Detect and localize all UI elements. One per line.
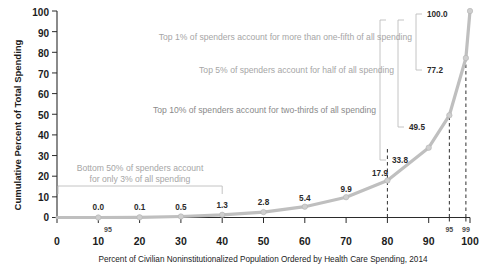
- data-label: 0.0: [93, 203, 105, 212]
- y-tick-label: 80: [38, 48, 50, 59]
- data-label: 77.2: [427, 66, 443, 75]
- data-label: 49.5: [409, 123, 425, 132]
- y-tick-label: 30: [38, 151, 50, 162]
- x-tick-label: 40: [216, 235, 228, 247]
- x-tick-label: 30: [175, 235, 187, 247]
- y-tick-label: 10: [38, 192, 50, 203]
- y-tick-label: 50: [38, 110, 50, 121]
- data-label: 100.0: [427, 10, 448, 19]
- data-label: 9.9: [340, 185, 352, 194]
- bracket-top-1: [416, 14, 422, 70]
- annotation-top-1: Top 1% of spenders account for more than…: [159, 32, 412, 42]
- x-tick-label: 60: [299, 235, 311, 247]
- data-label: 33.8: [392, 156, 408, 165]
- data-label: 1.3: [217, 201, 229, 210]
- y-tick-label: 100: [32, 7, 49, 18]
- annotation-top-10: Top 10% of spenders account for two-thir…: [153, 105, 376, 115]
- data-label: 0.5: [175, 203, 187, 212]
- x-stray-tick-label: 95: [104, 226, 112, 233]
- x-tick-label: 100: [461, 235, 479, 247]
- annotation-bottom-50-line1: Bottom 50% of spenders account: [77, 163, 204, 173]
- y-tick-label: 60: [38, 89, 50, 100]
- data-label: 0.1: [134, 203, 146, 212]
- x-tick-label: 0: [54, 235, 60, 247]
- x-tick-label: 10: [92, 235, 104, 247]
- x-tick-label: 50: [258, 235, 270, 247]
- y-tick-label: 90: [38, 28, 50, 39]
- bracket-bottom-50: [58, 186, 222, 194]
- x-minor-tick-label: 99: [462, 226, 470, 233]
- annotation-top-5: Top 5% of spenders account for half of a…: [199, 65, 394, 75]
- y-tick-label: 20: [38, 171, 50, 182]
- y-tick-label: 70: [38, 69, 50, 80]
- x-tick-label: 90: [423, 235, 435, 247]
- y-tick-label: 0: [43, 212, 49, 223]
- chart-container: Cumulative Percent of Total Spending 100…: [0, 0, 484, 269]
- y-axis-label: Cumulative Percent of Total Spending: [12, 39, 23, 210]
- y-tick-label: 40: [38, 130, 50, 141]
- x-minor-tick-label: 95: [445, 226, 453, 233]
- lorenz-curve-chart: Cumulative Percent of Total Spending 100…: [0, 0, 484, 269]
- x-tick-label: 20: [134, 235, 146, 247]
- data-label: 17.9: [372, 169, 388, 178]
- x-tick-label: 70: [340, 235, 352, 247]
- x-tick-label: 80: [382, 235, 394, 247]
- data-label: 5.4: [299, 194, 311, 203]
- x-axis-label: Percent of Civilian Noninstitutionalized…: [98, 255, 428, 264]
- y-axis-ticks: [52, 11, 57, 218]
- data-label: 2.8: [258, 198, 270, 207]
- annotation-bottom-50-line2: for only 3% of all spending: [90, 174, 191, 184]
